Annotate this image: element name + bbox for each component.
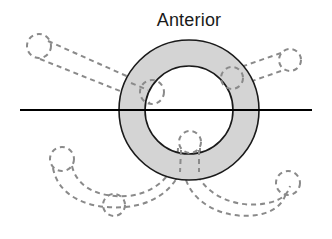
marker-bottom-stem-left	[180, 150, 181, 172]
anterior-label: Anterior	[157, 10, 222, 30]
marker-bottom-icon	[179, 131, 201, 153]
branch-lower-right-rail-inner	[186, 180, 286, 216]
branch-upper-left-rail-top	[48, 41, 140, 82]
branch-upper-left-terminal-circle	[27, 34, 51, 58]
branch-upper-right-terminal-circle	[279, 49, 301, 71]
branch-lower-left-mid-circle	[103, 194, 125, 216]
branch-lower-left-terminal-circle	[50, 147, 74, 171]
diagram-canvas: Anterior	[0, 0, 332, 239]
anatomical-diagram: Anterior	[0, 0, 332, 239]
branch-upper-right-rail-top	[238, 53, 281, 68]
